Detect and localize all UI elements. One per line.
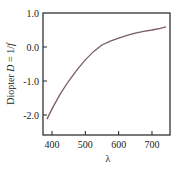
x-axis-label: λ: [106, 153, 111, 164]
diopter-curve: [47, 27, 166, 119]
y-tick-label: -2.0: [23, 110, 39, 121]
x-tick-label: 400: [45, 139, 60, 150]
diopter-chart: 1.00.0-1.0-2.0 400500600700 λ Diopter D …: [0, 0, 184, 174]
y-tick-label: 1.0: [27, 8, 40, 19]
y-tick-label: -1.0: [23, 76, 39, 87]
y-tick-label: 0.0: [27, 42, 40, 53]
y-axis-label: Diopter D = 1/f: [5, 42, 16, 105]
plot-frame: [43, 13, 170, 135]
x-tick-label: 700: [144, 139, 159, 150]
x-axis-ticks: 400500600700: [45, 131, 160, 150]
x-tick-label: 600: [111, 139, 126, 150]
x-tick-label: 500: [78, 139, 93, 150]
